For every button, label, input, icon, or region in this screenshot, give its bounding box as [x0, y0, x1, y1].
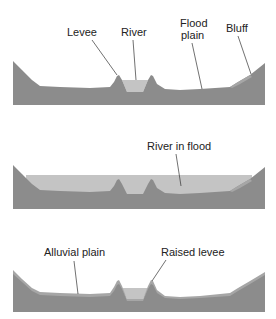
leader-bluff	[238, 36, 251, 74]
panel-river-in-flood: River in flood	[13, 140, 265, 209]
leader-river	[133, 40, 136, 80]
panel-after-flood: Alluvial plain Raised levee	[13, 246, 265, 312]
panel-normal-river: Levee River Flood plain Bluff	[13, 17, 265, 105]
label-flood-line1: Flood	[180, 17, 208, 29]
label-flood-line2: plain	[181, 29, 204, 41]
label-levee: Levee	[67, 26, 97, 38]
leader-raised-levee	[152, 260, 166, 281]
leader-alluvial-plain	[74, 261, 78, 294]
label-raised-levee: Raised levee	[161, 246, 225, 258]
label-river: River	[121, 26, 147, 38]
leader-flood-plain	[192, 43, 202, 89]
label-bluff: Bluff	[226, 22, 249, 34]
leader-levee	[92, 40, 117, 75]
label-alluvial-plain: Alluvial plain	[44, 246, 105, 258]
label-river-in-flood: River in flood	[147, 140, 211, 152]
floodplain-diagram: Levee River Flood plain Bluff River in f…	[0, 0, 276, 319]
